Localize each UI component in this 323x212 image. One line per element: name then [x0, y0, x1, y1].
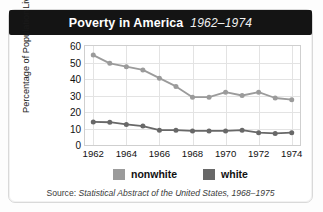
- source-note: Source: Statistical Abstract of the Unit…: [9, 188, 312, 198]
- x-axis-tick-label: 1966: [149, 145, 170, 159]
- data-point-white: [157, 128, 162, 133]
- data-point-white: [190, 128, 195, 133]
- data-point-white: [124, 122, 129, 127]
- data-point-nonwhite: [273, 95, 278, 100]
- poverty-chart-figure: Poverty in America 1962–1974 Percentage …: [0, 0, 323, 212]
- y-axis-tick-label: 10: [70, 123, 85, 134]
- data-point-nonwhite: [256, 90, 261, 95]
- y-axis-tick-label: 40: [70, 74, 85, 85]
- data-point-nonwhite: [289, 97, 294, 102]
- data-point-nonwhite: [124, 64, 129, 69]
- series-layer: [85, 46, 300, 145]
- x-axis-tick-label: 1968: [182, 145, 203, 159]
- series-line-nonwhite: [93, 55, 291, 100]
- legend-swatch-white: [203, 169, 215, 180]
- chart-title-bar: Poverty in America 1962–1974: [9, 10, 312, 35]
- data-point-nonwhite: [140, 67, 145, 72]
- y-axis-tick-label: 60: [70, 41, 85, 52]
- source-lead: Source:: [46, 188, 76, 198]
- legend-label-nonwhite: nonwhite: [131, 168, 177, 180]
- data-point-white: [273, 131, 278, 136]
- y-axis-tick-label: 20: [70, 107, 85, 118]
- data-point-white: [173, 128, 178, 133]
- x-axis-tick-label: 1974: [281, 145, 302, 159]
- y-axis-tick-label: 30: [70, 90, 85, 101]
- data-point-white: [140, 124, 145, 129]
- data-point-white: [256, 130, 261, 135]
- page-title: Poverty in America: [69, 16, 184, 30]
- y-axis-tick-label: 50: [70, 57, 85, 68]
- legend-label-white: white: [221, 168, 248, 180]
- y-axis-label: Percentage of Population Living Below Po…: [11, 0, 41, 70]
- data-point-white: [240, 128, 245, 133]
- data-point-nonwhite: [173, 84, 178, 89]
- x-axis-tick-label: 1964: [116, 145, 137, 159]
- plot-area: 0102030405060196219641966196819701972197…: [84, 45, 301, 146]
- y-axis-label-line-1: Percentage of Population: [21, 10, 32, 113]
- data-point-white: [207, 128, 212, 133]
- data-point-nonwhite: [190, 95, 195, 100]
- legend-item-nonwhite: nonwhite: [113, 168, 177, 180]
- source-citation: Statistical Abstract of the United State…: [78, 188, 274, 198]
- x-axis-tick-label: 1972: [248, 145, 269, 159]
- data-point-nonwhite: [207, 95, 212, 100]
- data-point-nonwhite: [107, 61, 112, 66]
- x-axis-tick-label: 1962: [83, 145, 104, 159]
- data-point-white: [289, 130, 294, 135]
- data-point-white: [107, 120, 112, 125]
- data-point-white: [91, 119, 96, 124]
- data-point-white: [223, 128, 228, 133]
- chart-legend: nonwhite white: [58, 166, 303, 182]
- title-year-range: 1962–1974: [190, 16, 252, 30]
- data-point-nonwhite: [91, 53, 96, 58]
- legend-swatch-nonwhite: [113, 169, 125, 180]
- data-point-nonwhite: [240, 93, 245, 98]
- legend-item-white: white: [203, 168, 248, 180]
- data-point-nonwhite: [223, 90, 228, 95]
- plot-wrapper: 0102030405060196219641966196819701972197…: [58, 41, 303, 146]
- data-point-nonwhite: [157, 76, 162, 81]
- x-axis-tick-label: 1970: [215, 145, 236, 159]
- y-axis-label-line-2: Living Below Poverty Level: [21, 0, 32, 9]
